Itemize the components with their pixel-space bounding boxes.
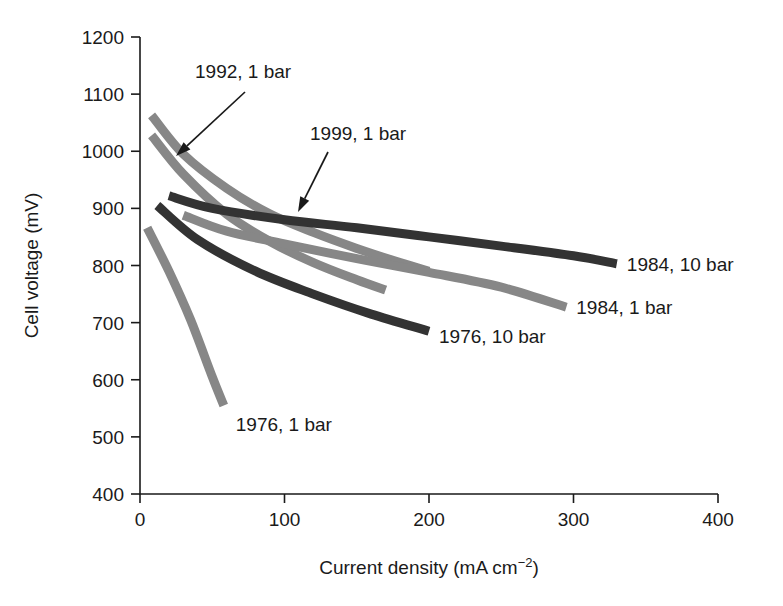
y-axis-tick-label: 600 — [92, 370, 124, 391]
series-label-1984-10-bar: 1984, 10 bar — [627, 254, 734, 275]
x-axis-title: Current density (mA cm−2) — [319, 555, 539, 578]
x-axis-tick-label: 400 — [702, 509, 734, 530]
x-axis-tick-label: 100 — [269, 509, 301, 530]
annotation-arrow-line — [305, 152, 328, 199]
chart-svg: 4005006007008009001000110012000100200300… — [0, 0, 783, 606]
chart-figure: 4005006007008009001000110012000100200300… — [0, 0, 783, 606]
y-axis-tick-label: 500 — [92, 427, 124, 448]
y-axis-tick-label: 800 — [92, 256, 124, 277]
annotation-label-1992-1-bar: 1992, 1 bar — [195, 61, 292, 82]
y-axis-tick-label: 400 — [92, 484, 124, 505]
x-axis-tick-label: 0 — [135, 509, 146, 530]
y-axis-tick-label: 900 — [92, 198, 124, 219]
y-axis-tick-label: 1000 — [82, 141, 124, 162]
y-axis-tick-label: 1200 — [82, 27, 124, 48]
annotation-arrow-line — [187, 92, 245, 146]
y-axis-tick-label: 700 — [92, 313, 124, 334]
series-band-1976-1-bar — [147, 228, 224, 406]
annotation-arrow-head — [298, 196, 309, 212]
x-axis-tick-label: 200 — [413, 509, 445, 530]
y-axis-title: Cell voltage (mV) — [21, 193, 42, 339]
y-axis-tick-label: 1100 — [83, 84, 124, 105]
annotation-label-1999-1-bar: 1999, 1 bar — [310, 123, 407, 144]
x-axis-tick-label: 300 — [558, 509, 590, 530]
series-label-1976-10-bar: 1976, 10 bar — [439, 326, 546, 347]
series-label-1976-1-bar: 1976, 1 bar — [236, 414, 333, 435]
series-label-1984-1-bar: 1984, 1 bar — [576, 297, 673, 318]
